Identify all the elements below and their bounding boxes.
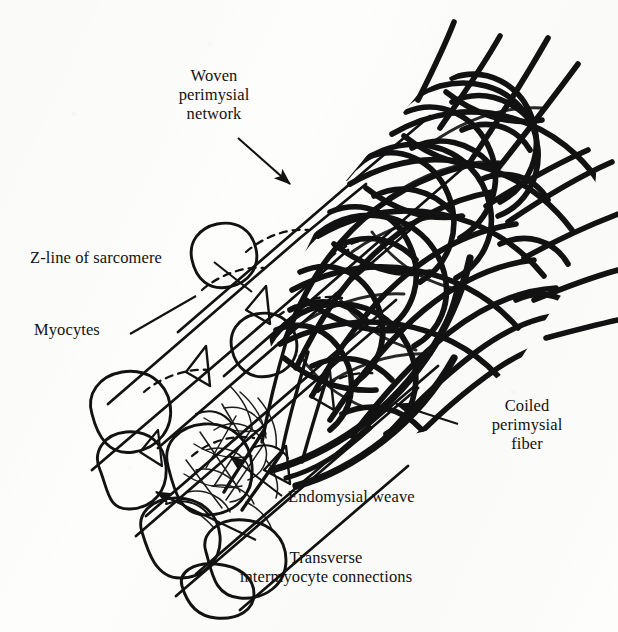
label-z-line-of-sarcomere: Z-line of sarcomere: [30, 248, 220, 267]
figure-root: Woven perimysial network Z-line of sarco…: [0, 0, 618, 632]
label-myocytes: Myocytes: [34, 320, 134, 339]
diagram-artwork: [0, 0, 618, 632]
label-transverse-intermyocyte-connections: Transverse intermyocyte connections: [198, 548, 454, 586]
leader-myocytes: [130, 296, 196, 334]
label-endomysial-weave: Endomysial weave: [288, 487, 468, 506]
label-woven-perimysial-network: Woven perimysial network: [152, 66, 276, 123]
leader-woven-perimysial-network: [238, 138, 290, 184]
woven-perimysial-network: [268, 22, 618, 450]
label-coiled-perimysial-fiber: Coiled perimysial fiber: [466, 396, 588, 453]
